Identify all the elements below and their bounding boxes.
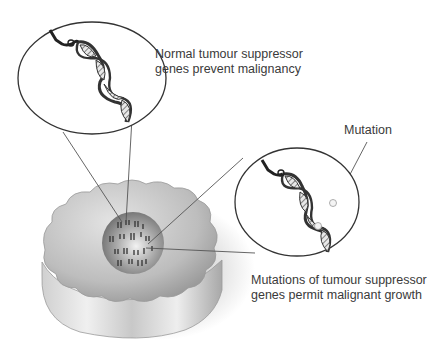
normal-genes-label: Normal tumour suppressor genes prevent m… [155,47,303,77]
mutated-genes-label-line2: genes permit malignant growth [251,288,427,303]
mutated-dna-callout [235,148,359,256]
nucleus [102,212,164,274]
mutation-label: Mutation [344,123,392,138]
normal-dna-callout [18,22,166,134]
mutated-genes-label: Mutations of tumour suppressor genes per… [251,273,427,303]
mutated-genes-label-line1: Mutations of tumour suppressor [251,273,427,288]
normal-genes-label-line1: Normal tumour suppressor [155,47,303,62]
normal-genes-label-line2: genes prevent malignancy [155,62,303,77]
